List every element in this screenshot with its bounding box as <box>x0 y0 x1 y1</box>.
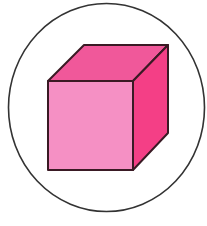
figure-canvas <box>0 0 207 226</box>
cube-front-face <box>48 81 133 170</box>
cube-icon <box>48 45 168 170</box>
cube-in-circle-illustration <box>0 0 207 226</box>
